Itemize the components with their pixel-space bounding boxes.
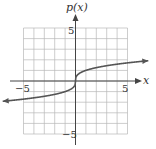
x-axis-label: x	[143, 74, 149, 87]
y-tick-pos5: 5	[68, 25, 74, 36]
x-tick-pos5: 5	[122, 83, 128, 94]
y-axis-label: p(x)	[66, 1, 88, 14]
y-tick-neg5: −5	[62, 129, 77, 140]
x-tick-neg5: −5	[15, 83, 30, 94]
cube-root-chart	[0, 0, 156, 149]
